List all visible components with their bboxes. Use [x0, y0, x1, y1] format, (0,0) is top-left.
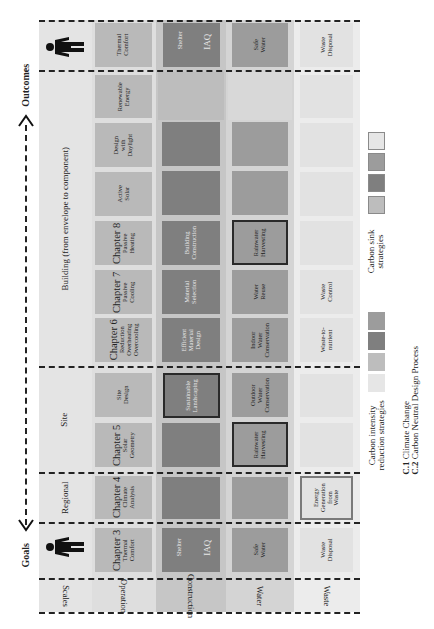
outcomes-arrow-icon — [17, 112, 35, 128]
legend-c2-text: Carbon Neutral Design Process — [410, 346, 420, 459]
outcome-operation-thermal-comfort: Thermal Comfort — [95, 23, 152, 67]
building-waste-active-solar — [300, 172, 353, 216]
building-water-renewable — [228, 72, 292, 120]
waste-to-nutrient-text: Waste-to- nutrient — [320, 327, 334, 352]
passive-cooling-text: Chapter 7 Passive Cooling — [111, 271, 136, 312]
axis-dashed-line — [25, 125, 27, 525]
climate-analysis-label: Climate Analysis — [122, 477, 136, 518]
building-construction-building-construction: Building Construction — [162, 221, 220, 265]
scale-regional: Regional — [39, 474, 92, 522]
regional-operation-climate-analysis: Chapter 4 Climate Analysis — [95, 476, 152, 519]
outcome-operation-text: Thermal Comfort — [117, 34, 131, 56]
site-design-text: Site Design — [117, 386, 131, 404]
building-operation-renewable-energy: Renewable Energy — [95, 75, 152, 118]
site-construction-solar-geometry — [162, 423, 220, 467]
renewable-energy-text: Renewable Energy — [117, 82, 131, 111]
site-water-outdoor-conservation: Outdoor Water Conservation — [232, 373, 288, 417]
row-label-scales: Scales — [39, 580, 92, 612]
building-water-rainwater-harvesting: Rainwater Harvesting — [232, 220, 288, 265]
reduction-label: Reduction Overheating Overcooling — [119, 319, 139, 360]
indoor-water-text: Indoor Water Conservation — [250, 323, 270, 358]
legend-intensity-swatch-water — [368, 312, 385, 330]
goal-thermal-comfort-text: Chapter 3 Thermal Comfort — [111, 529, 136, 570]
building-construction-material-selection: Material Selection — [162, 270, 220, 314]
material-selection-text: Material Selection — [184, 280, 198, 304]
dashed-line-top — [39, 20, 360, 22]
regional-water — [232, 477, 288, 519]
goal-operation-thermal-comfort: Chapter 3 Thermal Comfort — [95, 528, 152, 572]
outcome-water-safe-water: Safe Water — [232, 23, 288, 67]
building-operation-reduction-overheating: Chapter 6 Reduction Overheating Overcool… — [95, 318, 152, 362]
site-water-rainwater-harvesting: Rainwater Harvesting — [232, 422, 288, 467]
goals-label-text: Goals — [21, 543, 32, 567]
solar-geometry-text: Chapter 5 Solar Geometry — [111, 424, 136, 465]
legend-carbon-sink-text: Carbon sink strategies — [368, 229, 387, 273]
solar-geometry-label: Solar Geometry — [122, 424, 136, 465]
person-icon-goals — [40, 528, 90, 566]
building-construction-efficient-material: Efficient Material Design — [162, 318, 220, 362]
person-icon-outcomes — [40, 28, 90, 66]
legend-c2-prefix: C.2 — [410, 461, 420, 474]
goal-waste-disposal: Waste Disposal — [300, 528, 353, 572]
dashed-line-bottom — [39, 612, 360, 614]
legend-sink-swatch-water — [368, 153, 385, 171]
daylight-text: Design with Daylight — [113, 134, 133, 157]
active-solar-text: Active Solar — [117, 185, 131, 202]
reduction-text: Chapter 6 Reduction Overheating Overcool… — [108, 319, 139, 360]
goal-water-text: Safe Water — [253, 542, 267, 557]
legend-sink-swatch-waste — [368, 132, 385, 150]
building-water-daylight — [232, 122, 288, 166]
building-waste-waste-control: Waste Control — [300, 270, 353, 314]
efficient-material-text: Efficient Material Design — [181, 329, 201, 352]
sustainable-landscaping-text: Sustainable Landscaping — [185, 379, 199, 412]
passive-cooling-label: Passive Cooling — [122, 271, 136, 312]
outcome-waste-disposal: Waste Disposal — [300, 23, 353, 67]
building-construction-renewable — [158, 72, 224, 120]
legend-intensity-swatch-construction — [368, 332, 385, 350]
building-operation-passive-cooling: Chapter 7 Passive Cooling — [95, 270, 152, 314]
building-waste-daylight — [300, 123, 353, 167]
goal-shelter-text: Shelter — [176, 538, 183, 556]
scale-regional-label: Regional — [61, 482, 70, 515]
legend-carbon-intensity-text: Carbon intensity reduction strategies — [368, 400, 387, 470]
building-operation-active-solar: Active Solar — [95, 172, 152, 216]
goal-iaq-text: IAQ — [203, 540, 212, 556]
building-rainwater-text: Rainwater Harvesting — [253, 228, 267, 257]
legend-carbon-sink-label: Carbon sink strategies — [360, 216, 394, 286]
building-water-water-reuse: Water Reuse — [232, 270, 288, 314]
climate-analysis-text: Chapter 4 Climate Analysis — [111, 477, 136, 518]
legend-intensity-swatch-operation — [368, 353, 385, 371]
site-operation-site-design: Site Design — [95, 373, 152, 417]
scale-site-label: Site — [61, 413, 70, 427]
legend-carbon-intensity-label: Carbon intensity reduction strategies — [360, 395, 394, 475]
building-water-indoor-conservation: Indoor Water Conservation — [232, 318, 288, 362]
goals-arrow-icon — [17, 518, 35, 534]
outcome-iaq-text: IAQ — [203, 34, 212, 50]
building-waste-passive-heating — [300, 221, 353, 265]
energy-generation-text: Energy Generation from Waste — [313, 484, 340, 513]
regional-construction — [162, 477, 220, 519]
dashed-line-goals — [39, 522, 360, 524]
site-construction-sustainable-landscaping: Sustainable Landscaping — [163, 373, 220, 418]
waste-control-text: Waste Control — [320, 282, 334, 302]
passive-heating-label: Passive Heating — [122, 222, 136, 263]
building-waste-renewable — [300, 75, 353, 118]
row-label-operation: Operation — [92, 580, 156, 612]
site-waste-solar-geometry — [300, 423, 353, 467]
outcome-construction-shelter-iaq: Shelter IAQ — [163, 23, 220, 67]
row-label-waste: Waste — [294, 580, 360, 612]
row-label-waste-text: Waste — [322, 586, 332, 607]
building-water-active-solar — [232, 171, 288, 215]
legend-sink-swatch-operation — [368, 196, 385, 214]
site-rainwater-text: Rainwater Harvesting — [253, 430, 267, 459]
row-label-construction: Construction — [156, 580, 226, 612]
building-construction-active-solar — [162, 171, 220, 215]
legend-chapter-refs-text: C.1 Climate Change C.2 Carbon Neutral De… — [402, 346, 421, 475]
building-construction-text: Building Construction — [184, 226, 198, 260]
scale-building: Building (from envelope to component) — [39, 72, 92, 366]
goal-thermal-comfort-label: Thermal Comfort — [122, 529, 136, 570]
outcome-water-text: Safe Water — [253, 37, 267, 52]
legend-c1-prefix: C.1 — [401, 461, 411, 474]
row-label-water-text: Water — [255, 586, 265, 606]
regional-waste-energy-generation: Energy Generation from Waste — [300, 476, 353, 520]
